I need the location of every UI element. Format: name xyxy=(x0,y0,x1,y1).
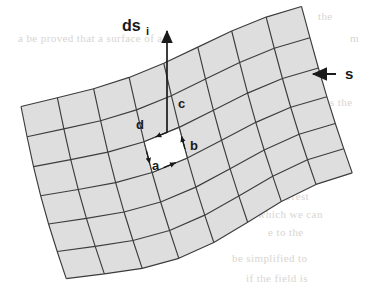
edge-a-label: a xyxy=(152,158,160,173)
mesh-cell-group xyxy=(21,6,352,278)
ds-label: ds xyxy=(122,17,141,34)
surface-s-label: s xyxy=(345,65,353,82)
edge-c-label: c xyxy=(178,96,185,111)
surface-mesh-diagram: ds i s d c b a xyxy=(0,0,375,303)
edge-b-label: b xyxy=(190,138,198,153)
edge-d-label: d xyxy=(136,117,144,132)
ds-subscript-label: i xyxy=(146,25,149,37)
figure-container: thea be proved that a surface of amCons … xyxy=(0,0,375,303)
